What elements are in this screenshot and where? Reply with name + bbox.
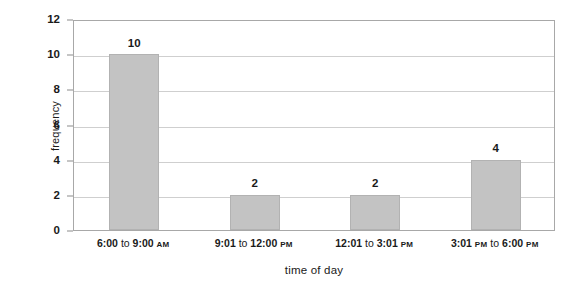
bar-group: 2 (195, 21, 316, 230)
x-axis-tick-label: 3:01 PM to 6:00 PM (451, 236, 539, 251)
y-axis-tick-labels: 024681012 (40, 20, 68, 231)
bar-value-label: 2 (372, 178, 378, 190)
bar (109, 54, 159, 230)
bar-group: 4 (436, 21, 557, 230)
y-axis-tick-label: 8 (40, 85, 68, 97)
y-axis-tick-label: 2 (40, 190, 68, 202)
y-axis-tick-label: 0 (40, 225, 68, 237)
bar-group: 10 (74, 21, 195, 230)
bar-chart-figure: frequency 024681012 10224 6:00 to 9:00 A… (0, 0, 587, 299)
x-axis-tick-labels: 6:00 to 9:00 AM9:01 to 12:00 PM12:01 to … (73, 236, 555, 254)
y-axis-tick-label: 12 (40, 14, 68, 26)
bar-value-label: 4 (493, 143, 499, 155)
y-axis-tick-label: 4 (40, 155, 68, 167)
plot-area: 10224 (73, 20, 555, 231)
bars-layer: 10224 (74, 21, 554, 230)
x-axis-tick-label: 12:01 to 3:01 PM (335, 236, 413, 251)
y-axis-tick-label: 10 (40, 49, 68, 61)
x-axis-tick-label: 9:01 to 12:00 PM (215, 236, 293, 251)
bar-value-label: 10 (128, 38, 141, 50)
bar (350, 195, 400, 230)
bar (230, 195, 280, 230)
bar (471, 160, 521, 230)
x-axis-tick-label: 6:00 to 9:00 AM (97, 236, 170, 251)
bar-value-label: 2 (252, 178, 258, 190)
y-axis-tick-label: 6 (40, 120, 68, 132)
bar-group: 2 (315, 21, 436, 230)
x-axis-title: time of day (73, 264, 555, 276)
